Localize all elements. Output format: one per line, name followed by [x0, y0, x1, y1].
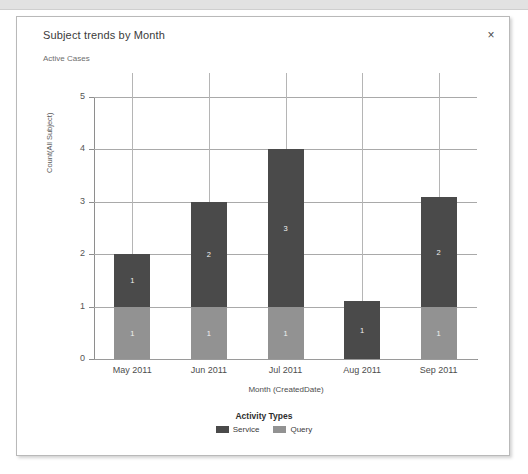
chart-canvas: Count(All Subject) 112131121 012345 May … [27, 73, 501, 447]
bar-value-label: 1 [421, 328, 457, 337]
bar-segment-service[interactable]: 2 [191, 202, 227, 307]
screenshot-root: Subject trends by Month × Active Cases C… [0, 0, 528, 474]
bar-value-label: 1 [114, 276, 150, 285]
bar-value-label: 2 [421, 247, 457, 256]
legend-swatch [273, 426, 286, 433]
legend-title: Activity Types [27, 411, 501, 421]
window-chrome-strip [0, 0, 528, 10]
x-tick-label: Aug 2011 [324, 365, 400, 375]
y-tick-mark [89, 202, 94, 203]
bar-stack[interactable]: 31 [268, 149, 304, 359]
y-tick-label: 3 [59, 196, 85, 206]
bar-segment-query[interactable]: 1 [114, 307, 150, 359]
chart-subtitle: Active Cases [43, 54, 90, 63]
legend-label: Query [290, 425, 312, 434]
bar-segment-service[interactable]: 1 [344, 301, 380, 359]
bar-value-label: 1 [191, 328, 227, 337]
bar-segment-service[interactable]: 3 [268, 149, 304, 306]
legend-swatch [216, 426, 229, 433]
y-tick-label: 1 [59, 301, 85, 311]
bar-segment-query[interactable]: 1 [191, 307, 227, 359]
y-tick-label: 5 [59, 91, 85, 101]
y-axis-title: Count(All Subject) [45, 113, 54, 173]
bar-stack[interactable]: 1 [344, 301, 380, 359]
bar-value-label: 2 [191, 250, 227, 259]
x-axis-title: Month (CreatedDate) [94, 385, 478, 394]
chart-dialog-panel: Subject trends by Month × Active Cases C… [16, 16, 510, 456]
gridline [94, 359, 477, 360]
x-tick-label: Sep 2011 [401, 365, 477, 375]
bar-stack[interactable]: 11 [114, 254, 150, 359]
bar-segment-service[interactable]: 2 [421, 197, 457, 307]
y-tick-mark [89, 359, 94, 360]
legend-entries: ServiceQuery [27, 425, 501, 434]
x-tick-label: May 2011 [94, 365, 170, 375]
bar-value-label: 1 [344, 326, 380, 335]
bar-segment-query[interactable]: 1 [268, 307, 304, 359]
close-icon[interactable]: × [483, 27, 499, 43]
bar-value-label: 3 [268, 224, 304, 233]
bar-value-label: 1 [114, 328, 150, 337]
legend-item[interactable]: Service [216, 425, 260, 434]
x-tick-label: Jul 2011 [248, 365, 324, 375]
bar-segment-query[interactable]: 1 [421, 307, 457, 359]
y-tick-mark [89, 254, 94, 255]
legend-label: Service [233, 425, 260, 434]
y-tick-mark [89, 97, 94, 98]
plot-area: 112131121 [94, 97, 477, 359]
x-tick-label: Jun 2011 [171, 365, 247, 375]
bar-value-label: 1 [268, 328, 304, 337]
bar-stack[interactable]: 21 [191, 202, 227, 359]
y-tick-mark [89, 307, 94, 308]
chart-legend: Activity Types ServiceQuery [27, 411, 501, 434]
y-tick-mark [89, 149, 94, 150]
page-title: Subject trends by Month [43, 29, 165, 41]
y-tick-label: 0 [59, 353, 85, 363]
bar-segment-service[interactable]: 1 [114, 254, 150, 306]
bar-stack[interactable]: 21 [421, 197, 457, 359]
legend-item[interactable]: Query [273, 425, 312, 434]
y-tick-label: 4 [59, 143, 85, 153]
y-tick-label: 2 [59, 248, 85, 258]
